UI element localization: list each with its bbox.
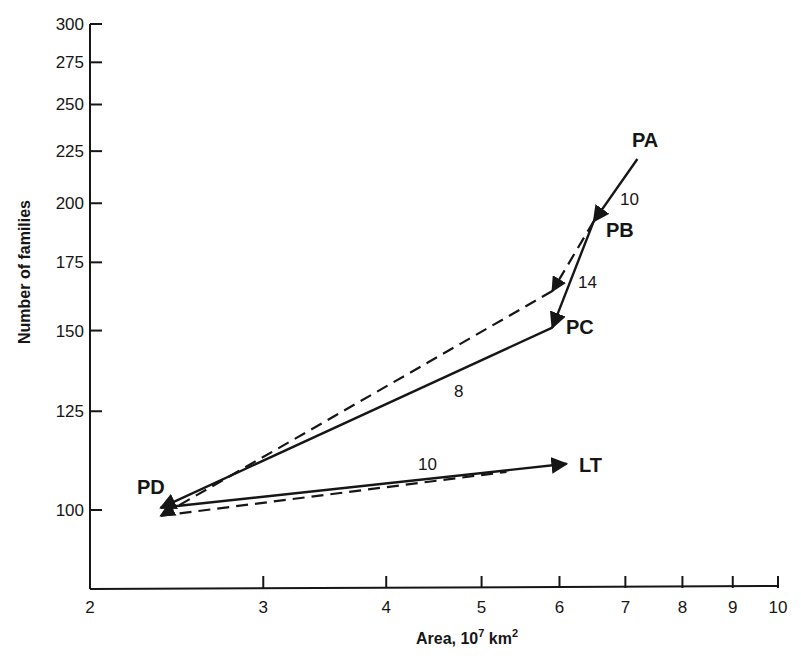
x-tick-label: 6 [555, 598, 564, 617]
x-tick-label: 5 [477, 598, 486, 617]
y-tick-label: 150 [56, 322, 84, 341]
label-pb: PB [606, 219, 634, 241]
y-tick-label: 275 [56, 53, 84, 72]
y-tick-label: 225 [56, 142, 84, 161]
x-ticks: 2345678910 [85, 576, 787, 617]
x-tick-label: 2 [85, 598, 94, 617]
y-tick-label: 100 [56, 501, 84, 520]
x-tick-label: 3 [259, 598, 268, 617]
solid-segment [161, 328, 553, 508]
x-tick-label: 8 [678, 598, 687, 617]
x-axis-title: Area, 107 km2 [416, 627, 518, 647]
segment-label-pd-lt: 10 [418, 455, 437, 474]
segment-label-pc-pd: 8 [454, 382, 463, 401]
segment-label-pa-pb: 10 [620, 190, 639, 209]
x-tick-label: 4 [381, 598, 390, 617]
y-axis-title: Number of families [16, 200, 33, 344]
label-pa: PA [632, 129, 658, 151]
x-tick-label: 7 [621, 598, 630, 617]
y-tick-label: 175 [56, 253, 84, 272]
label-lt: LT [579, 454, 602, 476]
dashed-segment [161, 472, 507, 516]
y-tick-label: 125 [56, 402, 84, 421]
y-tick-label: 200 [56, 194, 84, 213]
y-tick-label: 300 [56, 15, 84, 34]
axes: 100125150175200225250275300 2345678910 [56, 15, 788, 617]
y-tick-label: 250 [56, 95, 84, 114]
y-ticks: 100125150175200225250275300 [56, 15, 102, 520]
segment-label-pb-dash: 14 [578, 273, 597, 292]
chart-canvas: 100125150175200225250275300 2345678910 N… [0, 0, 801, 658]
x-axis-line [90, 586, 778, 589]
solid-segment [161, 464, 567, 508]
dashed-segment [161, 291, 553, 516]
x-tick-label: 10 [769, 598, 788, 617]
label-pd: PD [137, 476, 165, 498]
x-tick-label: 9 [728, 598, 737, 617]
label-pc: PC [566, 316, 594, 338]
